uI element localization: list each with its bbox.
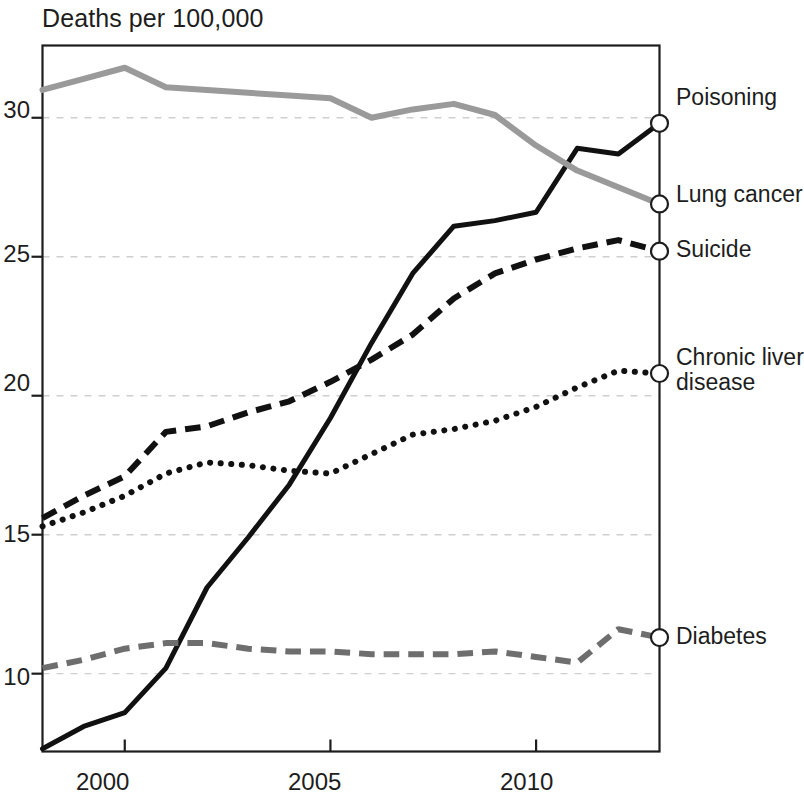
y-tick-label-30: 30	[0, 96, 30, 124]
x-tick-label-2010: 2010	[500, 768, 553, 796]
y-tick-label-15: 15	[0, 520, 30, 548]
plot-frame	[43, 46, 660, 752]
series-label-diabetes: Diabetes	[676, 624, 767, 649]
y-tick-label-25: 25	[0, 240, 30, 268]
series-label-chronic-liver-disease-line1: Chronic liver	[676, 344, 804, 370]
gridlines	[43, 118, 660, 674]
series-label-suicide: Suicide	[676, 237, 751, 262]
series-label-lung-cancer: Lung cancer	[676, 182, 803, 207]
series-label-chronic-liver-disease: Chronic liver disease	[676, 345, 804, 395]
x-tick-label-2005: 2005	[288, 768, 341, 796]
series-label-poisoning: Poisoning	[676, 85, 777, 110]
y-tick-label-10: 10	[0, 663, 30, 691]
y-axis-ticks	[32, 118, 43, 674]
series-paths	[43, 68, 660, 749]
x-tick-label-2000: 2000	[76, 768, 129, 796]
x-axis-ticks	[125, 740, 536, 752]
y-tick-label-20: 20	[0, 369, 30, 397]
series-label-chronic-liver-disease-line2: disease	[676, 369, 755, 395]
